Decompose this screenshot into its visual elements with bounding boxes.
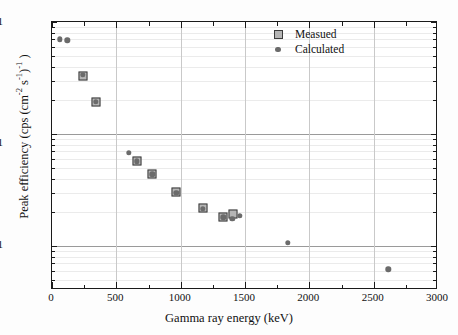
x-tick-major <box>181 282 182 288</box>
y-gridline-minor <box>52 271 436 272</box>
y-gridline-major <box>52 246 436 247</box>
y-tick-label-0_1: 0.1 <box>0 137 3 148</box>
y-tick-minor-right <box>433 179 436 180</box>
y-tick-minor <box>52 280 55 281</box>
data-point-calculated <box>57 37 62 42</box>
x-axis-title: Gamma ray energy (keV) <box>0 311 458 326</box>
x-tick-major-top <box>181 22 182 28</box>
legend-label-calculated: Calculated <box>291 43 344 56</box>
x-tick-label-2000: 2000 <box>297 292 319 303</box>
data-point-calculated <box>237 213 242 218</box>
y-tick-minor-right <box>433 159 436 160</box>
y-gridline-minor <box>52 151 436 152</box>
y-gridline-minor <box>52 139 436 140</box>
y-tick-minor <box>52 81 55 82</box>
x-tick-label-1000: 1000 <box>169 292 191 303</box>
x-tick-major-top <box>245 22 246 28</box>
y-tick-minor-right <box>433 193 436 194</box>
y-tick-minor-right <box>433 39 436 40</box>
y-tick-minor-right <box>433 27 436 28</box>
y-gridline-minor <box>52 257 436 258</box>
y-tick-minor <box>52 39 55 40</box>
x-tick-major-top <box>52 22 53 28</box>
y-tick-minor-right <box>433 56 436 57</box>
x-tick-minor <box>406 285 407 289</box>
x-tick-major <box>245 282 246 288</box>
x-gridline <box>181 22 182 288</box>
chart-figure: Peak efficiency (cps (cm-2 s-1)-1 ) 1 0.… <box>0 0 458 335</box>
y-gridline-minor <box>52 145 436 146</box>
x-tick-minor-top <box>149 22 150 26</box>
y-tick-minor <box>52 179 55 180</box>
x-tick-major <box>116 282 117 288</box>
y-tick-minor-right <box>433 33 436 34</box>
y-tick-minor <box>52 145 55 146</box>
y-tick-minor-right <box>433 100 436 101</box>
y-gridline-minor <box>52 179 436 180</box>
y-gridline-minor <box>52 67 436 68</box>
y-tick-minor <box>52 168 55 169</box>
y-tick-minor-right <box>433 145 436 146</box>
y-tick-minor <box>52 263 55 264</box>
data-point-calculated <box>126 150 131 155</box>
y-gridline-minor <box>52 193 436 194</box>
y-tick-minor-right <box>433 251 436 252</box>
y-tick-minor <box>52 159 55 160</box>
y-gridline-minor <box>52 212 436 213</box>
x-tick-minor <box>213 285 214 289</box>
data-point-calculated <box>285 240 290 245</box>
y-tick-minor <box>52 271 55 272</box>
x-tick-label-500: 500 <box>107 292 124 303</box>
y-tick-minor <box>52 33 55 34</box>
y-tick-minor <box>52 56 55 57</box>
y-tick-minor-right <box>433 151 436 152</box>
y-tick-minor-right <box>433 257 436 258</box>
x-gridline <box>245 22 246 288</box>
y-gridline-minor <box>52 159 436 160</box>
x-tick-minor-top <box>84 22 85 26</box>
x-tick-minor <box>277 285 278 289</box>
y-tick-minor <box>52 212 55 213</box>
y-tick-major-right <box>431 134 436 135</box>
y-tick-minor-right <box>433 139 436 140</box>
y-tick-minor-right <box>433 47 436 48</box>
x-tick-label-0: 0 <box>48 292 54 303</box>
x-tick-major <box>374 282 375 288</box>
y-tick-minor-right <box>433 212 436 213</box>
y-tick-minor-right <box>433 280 436 281</box>
x-gridline <box>374 22 375 288</box>
data-point-calculated <box>229 216 234 221</box>
x-tick-minor <box>342 285 343 289</box>
y-tick-label-0_01: 0.01 <box>0 239 3 250</box>
y-tick-minor <box>52 67 55 68</box>
x-gridline <box>116 22 117 288</box>
y-gridline-major <box>52 134 436 135</box>
y-gridline-minor <box>52 100 436 101</box>
y-tick-minor <box>52 151 55 152</box>
legend-square-marker-icon <box>265 30 291 39</box>
y-tick-minor <box>52 251 55 252</box>
y-gridline-minor <box>52 168 436 169</box>
x-tick-label-1500: 1500 <box>233 292 255 303</box>
y-tick-major-right <box>431 246 436 247</box>
x-tick-major-top <box>116 22 117 28</box>
data-point-calculated <box>65 38 70 43</box>
y-tick-label-1: 1 <box>0 16 3 27</box>
x-tick-minor <box>149 285 150 289</box>
legend-item-measured: Measued <box>265 27 385 42</box>
x-tick-label-2500: 2500 <box>362 292 384 303</box>
y-tick-minor-right <box>433 67 436 68</box>
y-gridline-minor <box>52 81 436 82</box>
y-tick-minor-right <box>433 263 436 264</box>
x-tick-minor <box>84 285 85 289</box>
y-tick-minor-right <box>433 271 436 272</box>
y-tick-major <box>52 246 57 247</box>
y-tick-minor <box>52 193 55 194</box>
y-tick-minor <box>52 100 55 101</box>
y-axis-title: Peak efficiency (cps (cm-2 s-1)-1 ) <box>14 2 31 272</box>
y-tick-minor <box>52 257 55 258</box>
y-tick-major-right <box>431 22 436 23</box>
x-tick-minor-top <box>213 22 214 26</box>
x-tick-label-3000: 3000 <box>426 292 448 303</box>
x-tick-minor-top <box>406 22 407 26</box>
